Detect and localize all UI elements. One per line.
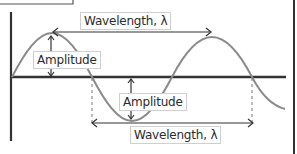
wavelength-label-top: Wavelength, λ <box>80 12 171 30</box>
amplitude-label-trough: Amplitude <box>119 93 187 111</box>
wavelength-label-bottom: Wavelength, λ <box>130 126 221 144</box>
frame-fragment <box>0 0 73 4</box>
amplitude-label-crest: Amplitude <box>33 51 101 69</box>
